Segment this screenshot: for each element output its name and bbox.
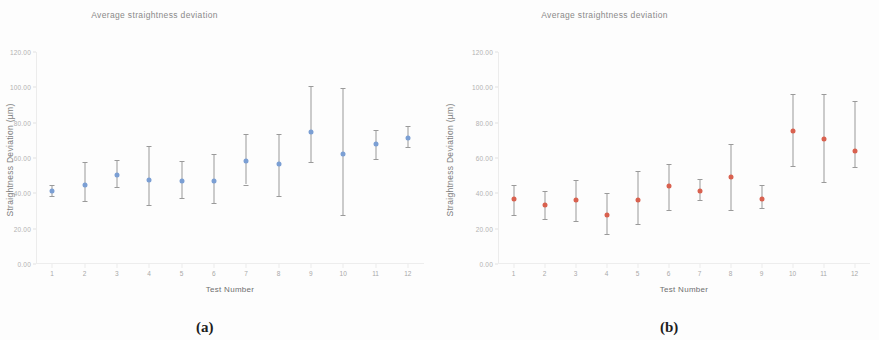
x-axis-tick-mark	[246, 264, 247, 268]
error-bar-cap-upper	[50, 185, 55, 186]
x-axis-tick-mark	[792, 264, 793, 268]
chart-title: Average straightness deviation	[470, 10, 739, 20]
data-point-marker	[635, 197, 640, 202]
y-axis-tick-mark	[495, 52, 498, 53]
error-bar-cap-upper	[697, 179, 702, 180]
y-axis-tick-mark	[495, 228, 498, 229]
x-axis-tick-mark	[213, 264, 214, 268]
error-bar-cap-upper	[405, 126, 410, 127]
error-bar-cap-upper	[211, 154, 216, 155]
error-bar-cap-lower	[405, 147, 410, 148]
x-axis-tick-mark	[84, 264, 85, 268]
error-bar-cap-lower	[542, 219, 547, 220]
x-axis-tick-mark	[149, 264, 150, 268]
x-axis-tick-mark	[699, 264, 700, 268]
data-point-marker	[666, 184, 671, 189]
x-axis-tick-label: 9	[760, 270, 764, 277]
error-bar-cap-lower	[50, 196, 55, 197]
y-axis-tick-label: 80.00	[14, 119, 31, 126]
y-axis-tick-label: 100.00	[472, 84, 493, 91]
error-bar-cap-lower	[604, 234, 609, 235]
x-axis-line	[36, 263, 424, 264]
data-point-marker	[573, 198, 578, 203]
error-bar-cap-lower	[82, 201, 87, 202]
x-axis-tick-mark	[823, 264, 824, 268]
y-axis-tick-label: 80.00	[476, 119, 493, 126]
data-point-marker	[276, 162, 281, 167]
x-axis-tick-mark	[854, 264, 855, 268]
error-bar-cap-upper	[308, 86, 313, 87]
y-axis-tick-label: 60.00	[476, 155, 493, 162]
data-point-marker	[50, 188, 55, 193]
y-axis-tick-label: 0.00	[480, 261, 493, 268]
x-axis-tick-mark	[575, 264, 576, 268]
error-bar-cap-upper	[728, 144, 733, 145]
data-point-marker	[244, 158, 249, 163]
data-point-marker	[114, 172, 119, 177]
x-axis-tick-label: 5	[180, 270, 184, 277]
y-axis-tick-mark	[495, 87, 498, 88]
y-axis-tick-mark	[495, 158, 498, 159]
x-axis-tick-label: 10	[340, 270, 347, 277]
x-axis-tick-label: 2	[543, 270, 547, 277]
error-bar-cap-lower	[179, 198, 184, 199]
x-axis-tick-label: 3	[115, 270, 119, 277]
x-axis-tick-mark	[730, 264, 731, 268]
error-bar-cap-upper	[373, 130, 378, 131]
x-axis-tick-label: 4	[605, 270, 609, 277]
x-axis-tick-label: 1	[50, 270, 54, 277]
data-point-marker	[697, 188, 702, 193]
error-bar-cap-lower	[697, 200, 702, 201]
plot-area-a: Test Number 0.0020.0040.0060.0080.00100.…	[36, 52, 424, 264]
x-axis-tick-label: 10	[789, 270, 796, 277]
x-axis-tick-label: 5	[636, 270, 640, 277]
y-axis-label-text: Straightness Deviation (µm)	[445, 103, 455, 216]
data-point-marker	[373, 141, 378, 146]
error-bar-cap-lower	[308, 162, 313, 163]
error-bar-cap-lower	[341, 215, 346, 216]
error-bar-cap-upper	[244, 134, 249, 135]
error-bar-cap-upper	[666, 164, 671, 165]
x-axis-tick-mark	[278, 264, 279, 268]
error-bar-cap-lower	[821, 182, 826, 183]
x-axis-tick-mark	[513, 264, 514, 268]
x-axis-tick-mark	[343, 264, 344, 268]
error-bar-cap-lower	[666, 210, 671, 211]
y-axis-tick-label: 60.00	[14, 155, 31, 162]
error-bar-cap-upper	[341, 88, 346, 89]
error-bar-cap-lower	[790, 166, 795, 167]
data-point-marker	[147, 178, 152, 183]
y-axis-tick-mark	[33, 122, 36, 123]
error-bar-cap-lower	[114, 187, 119, 188]
y-axis-tick-label: 120.00	[10, 49, 31, 56]
x-axis-tick-mark	[52, 264, 53, 268]
x-axis-tick-label: 3	[574, 270, 578, 277]
x-axis-tick-label: 1	[512, 270, 516, 277]
data-point-marker	[759, 196, 764, 201]
x-axis-tick-label: 7	[244, 270, 248, 277]
x-axis-tick-mark	[761, 264, 762, 268]
error-bar-cap-upper	[852, 101, 857, 102]
figure-container: Average straightness deviation Straightn…	[0, 0, 879, 340]
x-axis-tick-label: 8	[277, 270, 281, 277]
x-axis-tick-label: 6	[212, 270, 216, 277]
data-point-marker	[179, 178, 184, 183]
x-axis-tick-mark	[668, 264, 669, 268]
error-bar-cap-lower	[511, 215, 516, 216]
error-bar-cap-lower	[147, 205, 152, 206]
error-bar-line	[854, 101, 855, 166]
data-point-marker	[511, 196, 516, 201]
x-axis-tick-mark	[606, 264, 607, 268]
data-point-marker	[82, 182, 87, 187]
y-axis-label: Straightness Deviation (µm)	[442, 60, 458, 260]
y-axis-tick-label: 120.00	[472, 49, 493, 56]
error-bar-cap-upper	[821, 94, 826, 95]
y-axis-tick-label: 40.00	[476, 190, 493, 197]
error-bar-cap-upper	[114, 160, 119, 161]
error-bar-cap-upper	[511, 185, 516, 186]
error-bar-cap-lower	[573, 221, 578, 222]
error-bar-cap-upper	[635, 171, 640, 172]
y-axis-tick-label: 100.00	[10, 84, 31, 91]
y-axis-tick-mark	[33, 52, 36, 53]
y-axis-tick-mark	[33, 193, 36, 194]
